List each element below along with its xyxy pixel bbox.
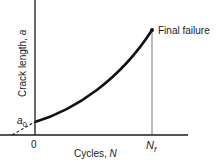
nf-label: Nf xyxy=(146,139,157,154)
crack-growth-curve xyxy=(35,30,152,122)
final-failure-label: Final failure xyxy=(158,25,210,36)
y-axis-label: Crack length, a xyxy=(17,29,28,97)
origin-label: 0 xyxy=(31,139,37,150)
crack-growth-chart: Final failure Crack length, a a0 0 Cycle… xyxy=(0,0,223,164)
final-failure-point xyxy=(150,28,154,32)
y-axis-label-text: Crack length, xyxy=(17,35,28,97)
y-axis-label-var: a xyxy=(17,29,28,35)
a0-label: a0 xyxy=(17,115,28,129)
x-axis-label: Cycles, N xyxy=(74,148,118,159)
